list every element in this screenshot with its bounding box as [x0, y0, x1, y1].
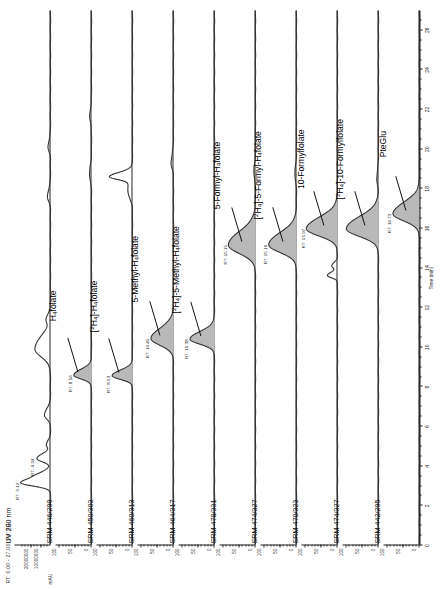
- time-axis-minor-tick: [419, 514, 421, 515]
- time-axis-tick-label: 26: [423, 27, 429, 33]
- time-axis-minor-tick: [419, 286, 421, 287]
- chromatogram-panel-srm-474-327-b[interactable]: SRM 474/327050100[2H4]-10-Formylfolate: [342, 10, 378, 545]
- time-axis-minor-tick: [419, 118, 421, 119]
- chromatogram-panel-srm-442-295[interactable]: SRM 442/295050100RT: 16.73PteGlu: [383, 10, 419, 545]
- y-axis-tick-label: 50: [150, 548, 155, 553]
- channel-label-srm-478-331: SRM 478/331: [208, 499, 217, 543]
- time-axis-minor-tick: [419, 356, 421, 357]
- time-axis-tick-label: 16: [423, 225, 429, 231]
- y-axis-tick-label: 100: [339, 548, 344, 556]
- time-axis-tick-label: 24: [423, 67, 429, 73]
- chromatogram-panel-srm-478-331[interactable]: SRM 478/331050100RT: 15.155-Formyl-H4fol…: [219, 10, 255, 545]
- y-axis-tick-label: 100: [52, 548, 57, 556]
- time-axis-minor-tick: [419, 475, 421, 476]
- time-axis-minor-tick: [419, 257, 421, 258]
- y-axis-tick-label: 0: [84, 548, 89, 551]
- plot-area: 050100RT: 8.53[2H4]-H4folate: [96, 10, 132, 545]
- time-axis-tick-label: 22: [423, 106, 429, 112]
- y-axis-tick-label: 0: [411, 548, 416, 551]
- label-leader-line: [395, 176, 405, 210]
- time-axis-minor-tick: [419, 237, 421, 238]
- chromatogram-panel-srm-464-317[interactable]: SRM 464/317050100RT: 10.38[2H4]-5-Methyl…: [178, 10, 214, 545]
- y-axis-tick-label: 0: [207, 548, 212, 551]
- chromatogram-panel-uv-280[interactable]: UV 280 nm1000000020000000RT: 3.12RT: 4.3…: [14, 10, 50, 545]
- retention-time-label: RT: 4.34: [30, 458, 35, 475]
- time-axis-tick-label: 0: [423, 544, 429, 547]
- time-axis-minor-tick: [419, 435, 421, 436]
- time-axis-tick: [419, 267, 422, 268]
- time-axis-minor-tick: [419, 168, 421, 169]
- y-axis-tick-label: 50: [232, 548, 237, 553]
- time-axis-tick: [419, 504, 422, 505]
- time-axis-minor-tick: [419, 524, 421, 525]
- channel-label-srm-474-327-a: SRM 474/327: [249, 499, 258, 543]
- y-axis-tick-label: 50: [68, 548, 73, 553]
- chromatogram-panel-srm-460-313[interactable]: SRM 460/313050100RT: 10.415-Methyl-H4fol…: [137, 10, 173, 545]
- time-axis-minor-tick: [419, 296, 421, 297]
- time-axis-minor-tick: [419, 19, 421, 20]
- plot-area: 050100[2H4]-10-Formylfolate: [342, 10, 378, 545]
- plot-area: 050100RT: 15.155-Formyl-H4folate: [219, 10, 255, 545]
- time-axis-minor-tick: [419, 336, 421, 337]
- leader-overlay: [342, 10, 378, 544]
- uv-y-unit-label: mAU: [47, 573, 52, 584]
- chromatogram-panel-srm-470-323[interactable]: SRM 470/323050100RT: 15.9710-Formylfolat…: [301, 10, 337, 545]
- time-axis-minor-tick: [419, 247, 421, 248]
- time-axis-tick: [419, 306, 422, 307]
- y-axis-tick-label: 20000000: [24, 548, 29, 568]
- y-axis-tick-label: 0: [248, 548, 253, 551]
- y-axis-tick-label: 50: [314, 548, 319, 553]
- time-axis-minor-tick: [419, 217, 421, 218]
- time-axis-tick-label: 8: [423, 385, 429, 388]
- plot-area: 050100RT: 15.16[2H4]-5-Formyl-H4folate: [260, 10, 296, 545]
- plot-area: 050100RT: 15.9710-Formylfolate: [301, 10, 337, 545]
- time-axis-minor-tick: [419, 376, 421, 377]
- label-leader-line: [108, 338, 118, 372]
- time-axis-minor-tick: [419, 366, 421, 367]
- time-axis-tick-label: 10: [423, 344, 429, 350]
- time-axis-minor-tick: [419, 197, 421, 198]
- plot-area: 1000000020000000RT: 3.12RT: 4.34mAU: [14, 10, 50, 545]
- retention-time-label: RT: 3.12: [15, 482, 20, 499]
- label-leader-line: [67, 337, 77, 371]
- label-leader-line: [149, 301, 159, 335]
- chromatogram-panel-srm-474-327-a[interactable]: SRM 474/327050100RT: 15.16[2H4]-5-Formyl…: [260, 10, 296, 545]
- panel-stack: UV 280 nm1000000020000000RT: 3.12RT: 4.3…: [14, 0, 419, 589]
- y-axis-tick-label: 100: [216, 548, 221, 556]
- channel-label-srm-464-317: SRM 464/317: [167, 499, 176, 543]
- channel-label-srm-446-299: SRM 446/299: [44, 499, 53, 543]
- y-axis-tick-label: 100: [257, 548, 262, 556]
- time-axis-minor-tick: [419, 316, 421, 317]
- chromatogram-panel-srm-446-299[interactable]: SRM 446/299050100RT: 8.56H4folate: [55, 10, 91, 545]
- time-axis-minor-tick: [419, 138, 421, 139]
- time-axis-minor-tick: [419, 277, 421, 278]
- y-axis-tick-label: 10000000: [33, 548, 38, 568]
- y-axis-tick-label: 50: [191, 548, 196, 553]
- label-leader-line: [354, 191, 364, 225]
- label-leader-line: [190, 301, 200, 335]
- time-axis-minor-tick: [419, 128, 421, 129]
- chromatogram-figure: RT: 0.00 - 27.00 SM: 9G UV 280 nm1000000…: [0, 0, 445, 589]
- y-axis-tick-label: 100: [93, 548, 98, 556]
- time-axis-minor-tick: [419, 78, 421, 79]
- time-axis-tick: [419, 544, 422, 545]
- time-axis-tick-label: 6: [423, 425, 429, 428]
- figure-rotator: RT: 0.00 - 27.00 SM: 9G UV 280 nm1000000…: [0, 0, 445, 589]
- time-axis-tick-label: 18: [423, 186, 429, 192]
- y-axis-tick-label: 100: [175, 548, 180, 556]
- time-axis-tick-label: 4: [423, 464, 429, 467]
- time-axis-tick: [419, 227, 422, 228]
- y-axis-tick-label: 0: [371, 548, 376, 551]
- chromatogram-panel-srm-450-303[interactable]: SRM 450/303050100RT: 8.53[2H4]-H4folate: [96, 10, 132, 545]
- channel-label-srm-442-295: SRM 442/295: [372, 499, 381, 543]
- leader-overlay: [301, 10, 337, 544]
- leader-overlay: [96, 10, 132, 544]
- time-axis-minor-tick: [419, 415, 421, 416]
- time-axis-minor-tick: [419, 177, 421, 178]
- leader-overlay: [178, 10, 214, 544]
- plot-area: 050100RT: 10.415-Methyl-H4folate: [137, 10, 173, 545]
- time-axis-minor-tick: [419, 158, 421, 159]
- time-axis-minor-tick: [419, 485, 421, 486]
- leader-overlay: [219, 10, 255, 544]
- y-axis-tick-label: 100: [298, 548, 303, 556]
